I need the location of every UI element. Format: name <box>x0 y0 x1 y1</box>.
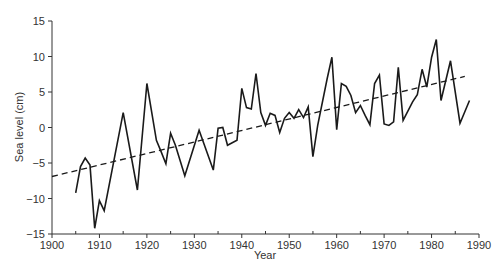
x-tick-label: 1970 <box>372 239 396 251</box>
y-tick-label: 10 <box>33 51 45 63</box>
x-tick-label: 1910 <box>87 239 111 251</box>
x-tick-label: 1990 <box>467 239 491 251</box>
x-tick-label: 1930 <box>182 239 206 251</box>
x-tick-label: 1950 <box>277 239 301 251</box>
x-tick-label: 1900 <box>40 239 64 251</box>
series-layer <box>52 40 470 229</box>
sea-level-line <box>76 40 470 229</box>
chart-canvas: −15−10−505101519001910192019301940195019… <box>0 0 504 273</box>
x-tick-label: 1920 <box>135 239 159 251</box>
y-tick-label: −10 <box>26 193 45 205</box>
x-tick-label: 1960 <box>324 239 348 251</box>
x-axis-label: Year <box>254 249 277 261</box>
y-tick-label: 15 <box>33 15 45 27</box>
sea-level-chart: −15−10−505101519001910192019301940195019… <box>0 0 504 273</box>
y-tick-label: −5 <box>32 157 45 169</box>
y-axis-label: Sea level (cm) <box>13 92 25 162</box>
x-tick-label: 1980 <box>419 239 443 251</box>
y-tick-label: 5 <box>39 86 45 98</box>
x-tick-label: 1940 <box>230 239 254 251</box>
y-tick-label: 0 <box>39 122 45 134</box>
